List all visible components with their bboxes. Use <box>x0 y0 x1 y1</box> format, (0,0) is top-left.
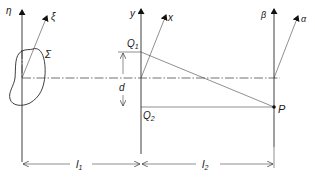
l2-label: l2 <box>202 158 208 171</box>
diagram-canvas: η ξ Σ y x Q1 Q2 d β α P l1 l2 <box>0 0 315 177</box>
d-label: d <box>119 82 125 93</box>
x-axis <box>141 15 166 78</box>
y-label: y <box>129 8 136 19</box>
eta-label: η <box>6 5 12 16</box>
middle-plane: y x Q1 Q2 d <box>118 8 174 154</box>
source-plane: η ξ Σ <box>6 5 56 162</box>
xi-axis <box>22 16 47 78</box>
ray-q1-to-p <box>141 52 274 107</box>
beta-label: β <box>260 10 266 20</box>
xi-label: ξ <box>51 11 56 23</box>
q2-label: Q2 <box>143 110 155 122</box>
x-label: x <box>167 12 174 23</box>
aperture-sigma-shape <box>10 49 46 106</box>
point-p <box>272 105 276 109</box>
observation-plane: β α P <box>260 9 307 147</box>
sigma-label: Σ <box>44 49 52 60</box>
distance-dimensions: l1 l2 <box>23 147 274 171</box>
p-label: P <box>278 103 286 115</box>
alpha-axis <box>274 16 298 78</box>
q1-label: Q1 <box>127 38 139 50</box>
alpha-label: α <box>301 14 307 24</box>
l1-label: l1 <box>76 158 82 171</box>
